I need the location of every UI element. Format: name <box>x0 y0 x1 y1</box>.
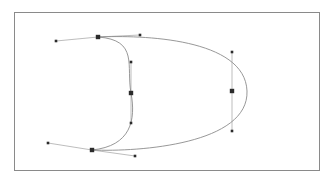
anchor-node-middle[interactable] <box>129 91 133 95</box>
anchor-node-bottom-left[interactable] <box>90 148 94 152</box>
handle-line-top-in <box>56 37 98 41</box>
handle-point-top-out[interactable] <box>139 34 142 37</box>
handle-point-middle-in[interactable] <box>130 61 133 64</box>
handle-points-group <box>47 34 234 158</box>
handle-lines-group <box>48 35 232 156</box>
vector-stage[interactable] <box>0 0 335 183</box>
handle-point-bottom-left-in[interactable] <box>134 155 137 158</box>
handle-line-bottom-left-in <box>92 150 135 156</box>
anchor-node-top[interactable] <box>96 35 100 39</box>
handle-point-middle-out[interactable] <box>130 122 133 125</box>
anchor-nodes-group <box>90 35 234 152</box>
handle-point-right-in[interactable] <box>231 51 234 54</box>
anchor-node-right[interactable] <box>230 89 234 93</box>
handle-point-top-in[interactable] <box>55 40 58 43</box>
handle-point-right-out[interactable] <box>231 130 234 133</box>
handle-line-bottom-left-out <box>48 143 92 150</box>
handle-point-bottom-left-out[interactable] <box>47 142 50 145</box>
vector-editor-canvas-window: Vector editing canvas with a closed bezi… <box>0 0 335 183</box>
bezier-path[interactable] <box>92 37 247 151</box>
